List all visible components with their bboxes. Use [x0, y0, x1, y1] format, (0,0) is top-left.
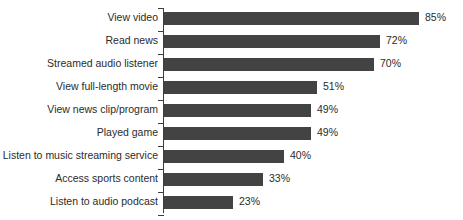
bar [164, 173, 263, 186]
category-label: View video [107, 11, 158, 24]
category-label: Played game [97, 126, 158, 139]
category-label: View news clip/program [47, 103, 158, 116]
bar-row: Listen to music streaming service40% [0, 146, 463, 169]
category-label: Listen to music streaming service [3, 149, 158, 162]
bar [164, 35, 380, 48]
bar-value-label: 40% [290, 149, 311, 162]
bar [164, 104, 311, 117]
bar-row: Access sports content33% [0, 169, 463, 192]
bar [164, 127, 311, 140]
category-label: Read news [105, 34, 158, 47]
axis-tick [158, 77, 164, 78]
category-label: View full-length movie [56, 80, 158, 93]
axis-tick [158, 54, 164, 55]
axis-tick [158, 31, 164, 32]
axis-tick [158, 192, 164, 193]
bar-value-label: 85% [425, 11, 446, 24]
bar-value-label: 49% [317, 126, 338, 139]
bar-row: Streamed audio listener70% [0, 54, 463, 77]
category-label: Streamed audio listener [47, 57, 158, 70]
category-label: Access sports content [55, 172, 158, 185]
bar [164, 12, 419, 25]
bar-value-label: 70% [380, 57, 401, 70]
bar-row: Read news72% [0, 31, 463, 54]
category-label: Listen to audio podcast [50, 195, 158, 208]
axis-tick-end [158, 215, 164, 216]
bar-row: Listen to audio podcast23% [0, 192, 463, 215]
axis-tick [158, 123, 164, 124]
bar-row: View video85% [0, 8, 463, 31]
bar-row: Played game49% [0, 123, 463, 146]
bar [164, 58, 374, 71]
bar-value-label: 72% [386, 34, 407, 47]
bar-value-label: 49% [317, 103, 338, 116]
bar-value-label: 23% [239, 195, 260, 208]
axis-tick [158, 169, 164, 170]
bar [164, 150, 284, 163]
bar [164, 196, 233, 209]
bar-value-label: 33% [269, 172, 290, 185]
plot-area: View video85%Read news72%Streamed audio … [0, 0, 463, 220]
bar-chart: View video85%Read news72%Streamed audio … [0, 0, 463, 220]
bar-row: View news clip/program49% [0, 100, 463, 123]
axis-tick [158, 8, 164, 9]
bar [164, 81, 317, 94]
axis-tick [158, 100, 164, 101]
bar-row: View full-length movie51% [0, 77, 463, 100]
axis-tick [158, 146, 164, 147]
bar-value-label: 51% [323, 80, 344, 93]
